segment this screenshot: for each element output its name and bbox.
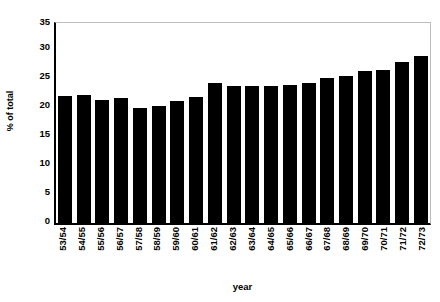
x-tick-slot: 69/70 [358,227,372,277]
x-tick-label: 64/65 [266,227,276,251]
x-tick-label: 63/64 [247,227,257,251]
bar [376,70,390,223]
x-tick-slot: 66/67 [302,227,316,277]
x-tick-label: 62/63 [228,227,238,251]
x-tick-label: 68/69 [341,227,351,251]
x-tick-slot: 67/68 [320,227,334,277]
x-tick-label: 67/68 [322,227,332,251]
x-tick-label: 59/60 [171,227,181,251]
x-tick-label: 54/55 [77,227,87,251]
x-tick-slot: 53/54 [56,227,70,277]
x-axis-title: year [54,281,431,292]
bar [283,85,297,223]
x-tick-label: 66/67 [304,227,314,251]
x-tick-slot: 65/66 [283,227,297,277]
x-tick-label: 70/71 [379,227,389,251]
x-tick-slot: 57/58 [132,227,146,277]
y-tick-label: 0 [28,216,50,226]
x-tick-label: 58/59 [152,227,162,251]
y-tick-label: 20 [28,100,50,110]
bar [95,100,109,223]
x-tick-label: 57/58 [134,227,144,251]
x-tick-slot: 55/56 [94,227,108,277]
x-tick-label: 72/73 [417,227,427,251]
x-tick-label: 65/66 [285,227,295,251]
bar [320,78,334,223]
x-tick-label: 60/61 [190,227,200,251]
x-tick-slot: 71/72 [396,227,410,277]
x-tick-label: 71/72 [398,227,408,251]
y-tick-label: 30 [28,42,50,52]
x-tick-slot: 60/61 [188,227,202,277]
x-tick-label: 61/62 [209,227,219,251]
x-tick-slot: 63/64 [245,227,259,277]
bar [264,86,278,223]
bar-series [56,23,430,223]
y-tick-label: 25 [28,71,50,81]
x-tick-slot: 72/73 [415,227,429,277]
bar [133,108,147,223]
bar [170,101,184,223]
x-axis-tick-labels: 53/5454/5555/5656/5757/5858/5959/6060/61… [54,227,431,277]
y-axis-title: % of total [5,63,15,159]
y-tick-label: 35 [28,17,50,27]
x-tick-slot: 64/65 [264,227,278,277]
x-tick-slot: 59/60 [169,227,183,277]
plot-area [54,22,431,225]
bar [58,96,72,223]
x-tick-label: 56/57 [115,227,125,251]
x-tick-slot: 70/71 [377,227,391,277]
y-tick-label: 10 [28,158,50,168]
y-tick-label: 15 [28,129,50,139]
bar [245,86,259,223]
y-tick-label: 5 [28,187,50,197]
bar [152,106,166,223]
x-tick-slot: 56/57 [113,227,127,277]
x-tick-label: 53/54 [58,227,68,251]
y-axis-tick-labels: 35 30 25 20 15 10 5 0 [24,0,50,302]
bar [302,83,316,223]
bar [395,62,409,223]
bar [339,76,353,223]
bar-chart: % of total 35 30 25 20 15 10 5 0 53/5454… [0,0,440,302]
x-tick-slot: 54/55 [75,227,89,277]
bar [208,83,222,223]
x-tick-slot: 58/59 [150,227,164,277]
bar [227,86,241,223]
x-tick-slot: 61/62 [207,227,221,277]
x-tick-slot: 62/63 [226,227,240,277]
x-tick-label: 69/70 [360,227,370,251]
x-tick-slot: 68/69 [339,227,353,277]
bar [77,95,91,223]
bar [189,97,203,223]
x-tick-label: 55/56 [96,227,106,251]
bar [358,71,372,223]
bar [114,98,128,223]
bar [414,56,428,223]
